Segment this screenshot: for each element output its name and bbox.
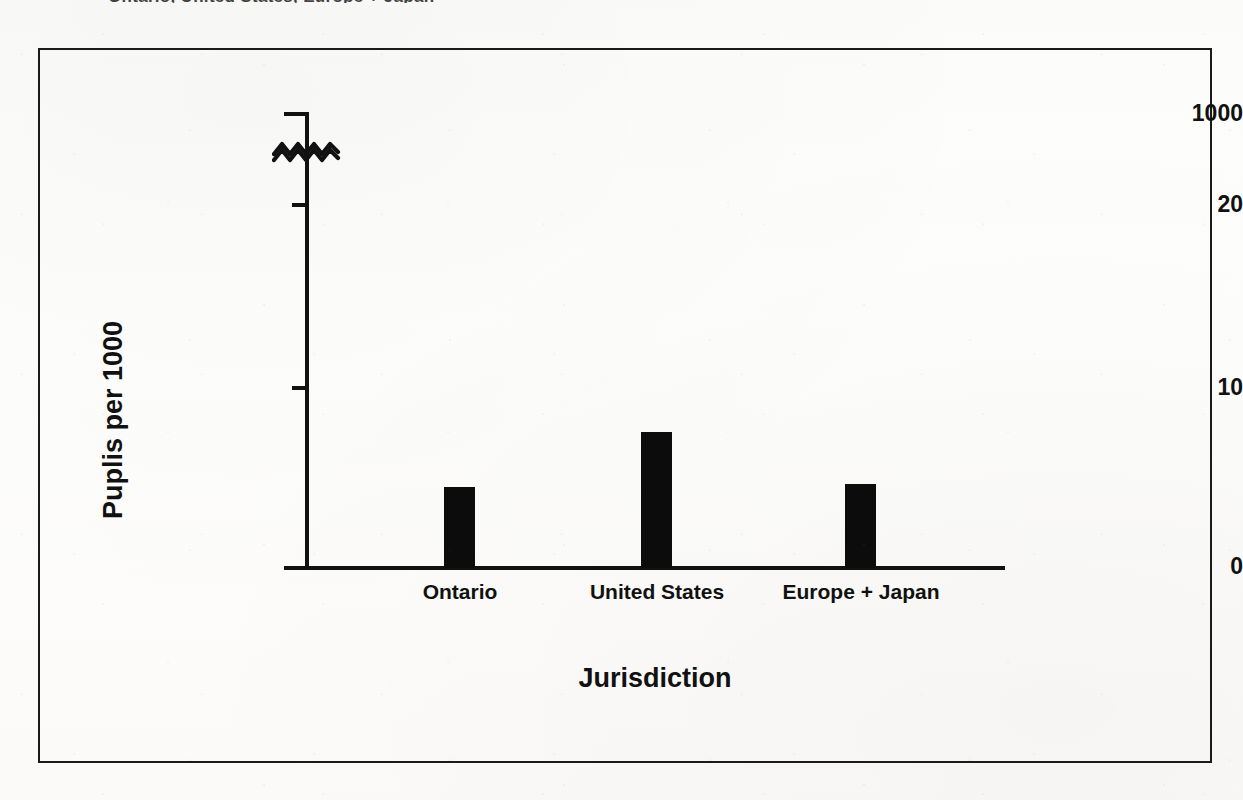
chart-outer-frame <box>38 48 1212 763</box>
cropped-caption-fragment: Ontario, United States, Europe + Japan <box>108 0 808 3</box>
